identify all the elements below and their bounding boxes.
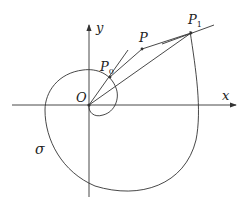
tangent-p1 [162,25,214,44]
label-x: x [222,88,230,103]
label-sigma: σ [35,141,45,157]
point-p [141,48,144,51]
label-p1: P1 [187,12,202,29]
point-p0 [109,76,112,79]
label-y: y [95,20,104,35]
point-p1 [190,32,193,35]
spiral-curve-sigma [45,31,198,191]
chord-p0-p-p1 [110,33,191,77]
point-o [87,103,90,106]
label-p: P [138,30,148,45]
label-p0: P0 [99,59,114,76]
label-origin: O [76,90,87,105]
spiral-diagram: y x O P0 P P1 σ [0,0,244,206]
